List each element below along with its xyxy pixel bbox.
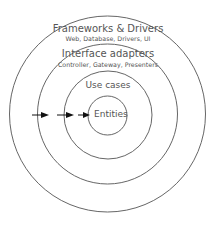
arrow-icon [32, 112, 49, 118]
frameworks-drivers-title: Frameworks & Drivers [0, 23, 216, 34]
interface-adapters-subtitle: Controller, Gateway, Presenters [0, 61, 216, 68]
entities-title: Entities [94, 109, 128, 119]
frameworks-drivers-subtitle: Web, Database, Drivers, UI [0, 35, 216, 42]
arrow-icon [57, 112, 74, 118]
use-cases-title: Use cases [0, 80, 216, 90]
interface-adapters-title: Interface adapters [0, 48, 216, 59]
